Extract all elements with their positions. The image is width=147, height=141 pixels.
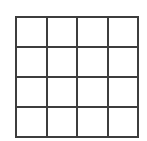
grid-cell-r3-c2[interactable] (47, 77, 78, 107)
grid-cell-r3-c4[interactable] (108, 77, 139, 107)
grid-cell-r2-c4[interactable] (108, 47, 139, 77)
grid-cell-r2-c1[interactable] (16, 47, 47, 77)
grid-cell-r3-c1[interactable] (16, 77, 47, 107)
grid-cell-r2-c3[interactable] (77, 47, 108, 77)
grid-cell-r3-c3[interactable] (77, 77, 108, 107)
grid-cell-r4-c4[interactable] (108, 107, 139, 137)
grid-cell-r4-c1[interactable] (16, 107, 47, 137)
grid-cell-r4-c2[interactable] (47, 107, 78, 137)
grid-cell-r1-c3[interactable] (77, 17, 108, 47)
grid-cell-r1-c1[interactable] (16, 17, 47, 47)
empty-grid-4x4 (15, 16, 139, 138)
grid-cell-r2-c2[interactable] (47, 47, 78, 77)
grid-cell-r1-c2[interactable] (47, 17, 78, 47)
grid-cell-r4-c3[interactable] (77, 107, 108, 137)
grid-cell-r1-c4[interactable] (108, 17, 139, 47)
